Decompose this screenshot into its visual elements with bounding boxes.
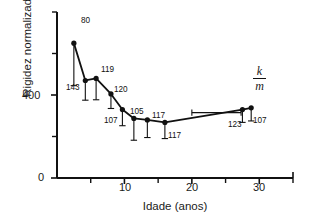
data-point-marker [71,41,76,46]
data-point-marker [145,117,150,122]
data-point-marker [162,120,167,125]
data-point-marker [120,107,125,112]
chart-figure: Rigidez normalizada (S-2) Idade (anos) 0… [0,0,310,224]
data-trend-line [74,43,251,122]
data-point-marker [249,105,254,110]
data-point-marker [83,78,88,83]
data-point-marker [240,107,245,112]
data-point-marker [94,76,99,81]
data-point-marker [108,91,113,96]
plot-area [0,0,310,224]
data-point-marker [131,116,136,121]
